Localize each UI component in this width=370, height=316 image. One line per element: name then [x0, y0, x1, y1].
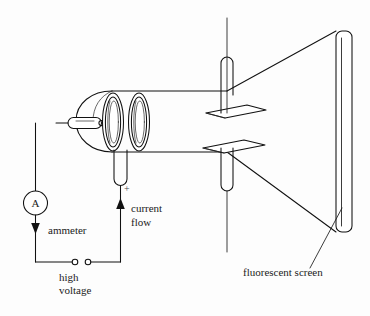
ammeter-label: ammeter	[48, 224, 87, 236]
screen-outline	[336, 31, 352, 232]
current-flow-label-line2: flow	[131, 216, 151, 228]
ammeter-flow-arrowhead	[31, 223, 40, 234]
high-voltage-label-line1: high	[59, 271, 79, 283]
ammeter-symbol-label: A	[32, 197, 40, 209]
cone-lower-edge	[227, 152, 336, 232]
upper-deflection-plate	[206, 105, 266, 118]
current-flow-arrowhead	[116, 198, 125, 209]
tube-cone-group	[227, 31, 336, 232]
fluorescent-screen-label: fluorescent screen	[243, 266, 323, 278]
fluorescent-screen-slab	[336, 31, 352, 232]
cone-upper-edge	[227, 31, 336, 91]
cathode-capsule	[68, 118, 102, 129]
current-flow-arrow	[116, 198, 125, 209]
upper-deflection-plate-group	[206, 18, 266, 118]
cathode-ray-tube-diagram: A	[0, 0, 370, 316]
high-voltage-label-line2: voltage	[59, 284, 91, 296]
crt-figure-root: A	[0, 0, 370, 316]
cathode-assembly-group	[56, 118, 104, 129]
hv-terminal-left	[72, 259, 78, 265]
anode-rings-group	[103, 93, 150, 151]
lower-deflection-plate	[203, 140, 265, 153]
positive-sign-label: +	[124, 183, 130, 194]
anode-ring-first	[103, 93, 124, 151]
anode-u-lead	[114, 150, 127, 186]
cathode-circuit-group: A	[24, 123, 48, 262]
high-voltage-circuit-group	[36, 259, 121, 265]
anode-ring-second	[129, 93, 150, 151]
current-flow-label-line1: current	[131, 202, 162, 214]
hv-terminal-right	[85, 259, 91, 265]
